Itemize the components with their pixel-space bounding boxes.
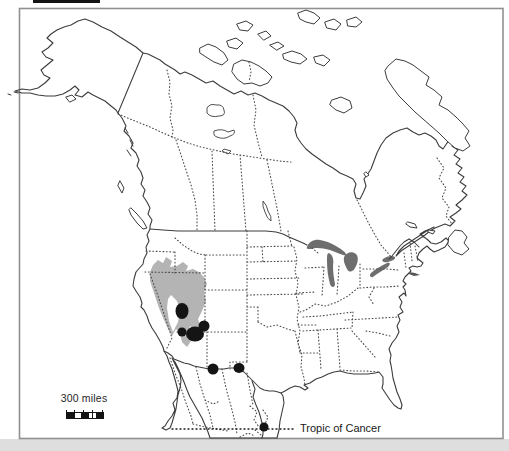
scale-tick (66, 410, 67, 419)
occurrence-dot (199, 321, 210, 332)
scale-bar-label: 300 miles (52, 392, 116, 404)
map-canvas (0, 0, 509, 451)
scale-tick (74, 410, 75, 419)
occurrence-dot (208, 364, 219, 375)
occurrence-dot (234, 363, 245, 373)
scale-bar-graphic (66, 412, 104, 419)
scale-tick (92, 410, 93, 419)
aleutian-islets (8, 92, 18, 95)
scale-segment (74, 413, 81, 418)
occurrence-dot (260, 423, 269, 432)
map-figure: 300 miles Tropic of Cancer (0, 0, 509, 451)
scale-tick (83, 410, 84, 419)
tropic-of-cancer-label: Tropic of Cancer (300, 422, 381, 434)
occurrence-dot (176, 303, 189, 319)
scale-tick (102, 410, 103, 419)
occurrence-dot (178, 328, 187, 337)
